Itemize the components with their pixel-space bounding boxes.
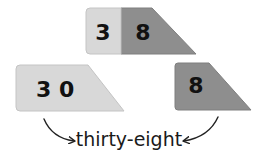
tens-card-30: 3 0 <box>16 65 124 111</box>
ones-card-digit: 8 <box>188 73 203 98</box>
place-value-diagram: 3 8 3 0 8 thirty-eight <box>0 0 262 160</box>
left-arrow-icon <box>44 119 74 141</box>
ones-card-shape <box>175 63 251 110</box>
combined-tens-digit: 3 <box>95 20 110 45</box>
combined-card-ones-part <box>121 8 196 54</box>
number-word-caption: thirty-eight <box>76 128 182 150</box>
ones-card-8: 8 <box>175 63 251 110</box>
right-arrow-icon <box>184 117 218 141</box>
combined-ones-digit: 8 <box>135 20 150 45</box>
tens-card-label: 3 0 <box>36 77 74 102</box>
combined-card-38: 3 8 <box>86 8 196 54</box>
